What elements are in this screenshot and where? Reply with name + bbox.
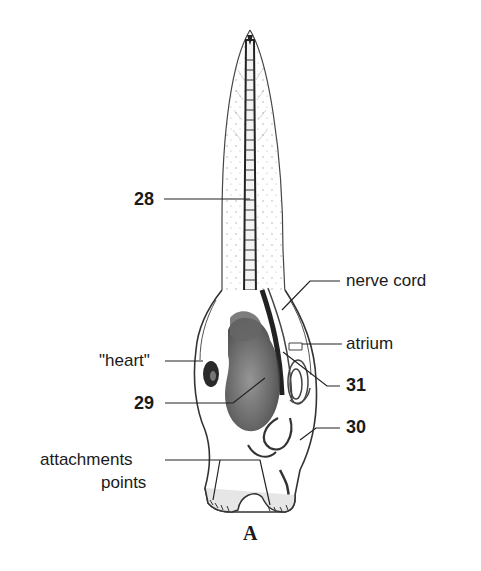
panel-letter: A: [243, 522, 257, 545]
label-nerve-cord: nerve cord: [346, 272, 426, 289]
label-28: 28: [134, 190, 154, 208]
label-29: 29: [134, 394, 154, 412]
label-31: 31: [346, 376, 366, 394]
label-points: points: [101, 474, 146, 491]
label-30: 30: [346, 418, 366, 436]
label-heart: "heart": [99, 352, 150, 369]
label-attachments: attachments: [40, 451, 133, 468]
notochord: [244, 40, 256, 303]
label-atrium: atrium: [346, 335, 393, 352]
